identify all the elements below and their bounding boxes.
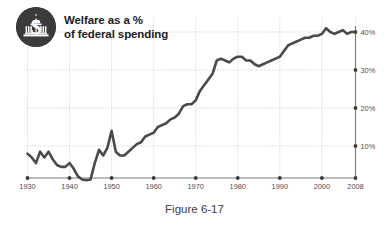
horizontal-gridlines: [28, 32, 358, 146]
y-axis-tick-labels: 10%20%30%40%: [361, 28, 376, 151]
chart-title: Welfare as a % of federal spending: [64, 13, 168, 41]
x-tick-label: 2008: [347, 182, 363, 191]
x-tick-label: 1990: [272, 182, 288, 191]
y-tick-label: 10%: [361, 142, 376, 151]
y-tick-label: 40%: [361, 28, 376, 37]
figure-caption: Figure 6-17: [0, 203, 389, 215]
axis-lines: [28, 26, 356, 178]
x-axis-tick-labels: 193019401950196019701980199020002008: [19, 182, 363, 191]
x-tick-label: 1930: [19, 182, 35, 191]
dollar-capitol-icon: $: [16, 7, 56, 47]
x-tick-label: 1970: [187, 182, 203, 191]
x-tick-label: 2000: [314, 182, 330, 191]
x-tick-label: 1940: [61, 182, 77, 191]
chart-header: $ Welfare as a % of federal spending: [16, 7, 168, 47]
svg-text:$: $: [31, 16, 41, 38]
y-tick-label: 20%: [361, 104, 376, 113]
x-tick-label: 1950: [103, 182, 119, 191]
x-tick-label: 1980: [230, 182, 246, 191]
welfare-spending-series: [28, 28, 356, 180]
x-tick-label: 1960: [145, 182, 161, 191]
figure-container: 193019401950196019701980199020002008 10%…: [0, 0, 389, 228]
y-tick-label: 30%: [361, 66, 376, 75]
